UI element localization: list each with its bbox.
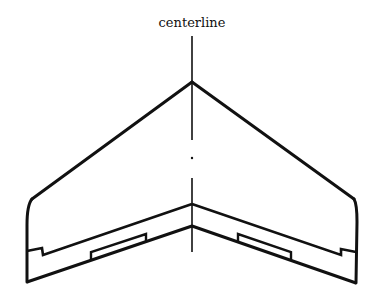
leading-edge-right xyxy=(192,82,354,199)
leading-edges xyxy=(32,82,354,199)
centerline-label: centerline xyxy=(159,15,226,30)
leading-edge-left xyxy=(32,82,192,199)
elevon-tabs xyxy=(91,234,291,261)
flying-wing-diagram: centerline xyxy=(0,0,382,304)
wingtip-right xyxy=(354,199,357,283)
centerline xyxy=(191,36,193,252)
wingtip-left xyxy=(27,199,32,282)
